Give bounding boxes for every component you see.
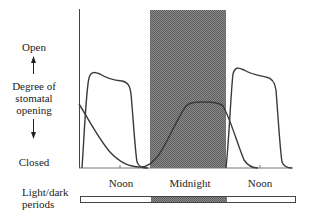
dark-period-region [150, 10, 226, 168]
light-dark-label-2: periods [22, 198, 54, 210]
x-label-noon-left: Noon [109, 177, 133, 189]
y-label-degree-3: opening [2, 104, 66, 116]
day-open-curve-1 [82, 73, 148, 168]
day-open-curve-2 [226, 68, 292, 168]
y-label-closed: Closed [12, 156, 56, 168]
y-label-open: Open [18, 41, 50, 53]
y-label-degree-1: Degree of [2, 80, 66, 92]
x-label-midnight: Midnight [170, 177, 211, 189]
light-dark-bar-dark-segment [151, 197, 227, 202]
y-label-degree-2: stomatal [2, 92, 66, 104]
light-dark-label-1: Light/dark [22, 186, 68, 198]
x-label-noon-right: Noon [248, 177, 272, 189]
arrow-down-icon [31, 132, 36, 139]
arrow-up-icon [31, 56, 36, 63]
